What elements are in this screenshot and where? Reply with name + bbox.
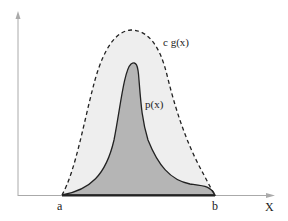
x-axis-label: X [265,200,274,214]
x-axis-arrow-icon [266,193,275,198]
y-axis [16,11,21,196]
b-label: b [212,199,218,213]
rejection-sampling-diagram: c g(x) p(x) a b X [0,0,288,221]
envelope-label: c g(x) [163,36,189,49]
y-axis-arrow-icon [16,11,21,19]
target-label: p(x) [145,98,164,111]
a-label: a [57,199,63,213]
